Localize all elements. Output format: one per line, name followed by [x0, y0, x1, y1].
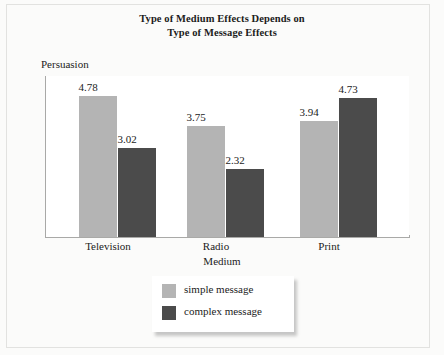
value-label-print-complex: 4.73: [329, 83, 367, 95]
chart-title: Type of Medium Effects Depends on Type o…: [0, 12, 444, 40]
x-tick-label-print: Print: [281, 240, 377, 252]
x-tick-label-television: Television: [60, 240, 156, 252]
bar-print-simple: [300, 121, 338, 237]
x-tick-label-radio: Radio: [168, 240, 264, 252]
value-label-radio-complex: 2.32: [216, 154, 254, 166]
bar-radio-complex: [226, 169, 264, 237]
legend-label-simple: simple message: [184, 283, 253, 295]
bar-television-simple: [79, 96, 117, 237]
chart-figure: Type of Medium Effects Depends on Type o…: [0, 0, 444, 355]
x-axis-title: Medium: [0, 255, 444, 267]
chart-title-line-1: Type of Medium Effects Depends on: [0, 12, 444, 26]
value-label-television-complex: 3.02: [108, 133, 146, 145]
legend-swatch-icon-simple: [162, 284, 176, 298]
value-label-print-simple: 3.94: [290, 106, 328, 118]
value-label-radio-simple: 3.75: [177, 111, 215, 123]
chart-title-line-2: Type of Message Effects: [0, 26, 444, 40]
chart-legend: simple message complex message: [152, 276, 294, 332]
legend-label-complex: complex message: [184, 305, 262, 317]
value-label-television-simple: 4.78: [69, 81, 107, 93]
bar-television-complex: [118, 148, 156, 237]
y-axis-title: Persuasion: [41, 58, 89, 70]
bar-radio-simple: [187, 126, 225, 237]
bar-print-complex: [339, 98, 377, 237]
legend-swatch-icon-complex: [162, 306, 176, 320]
